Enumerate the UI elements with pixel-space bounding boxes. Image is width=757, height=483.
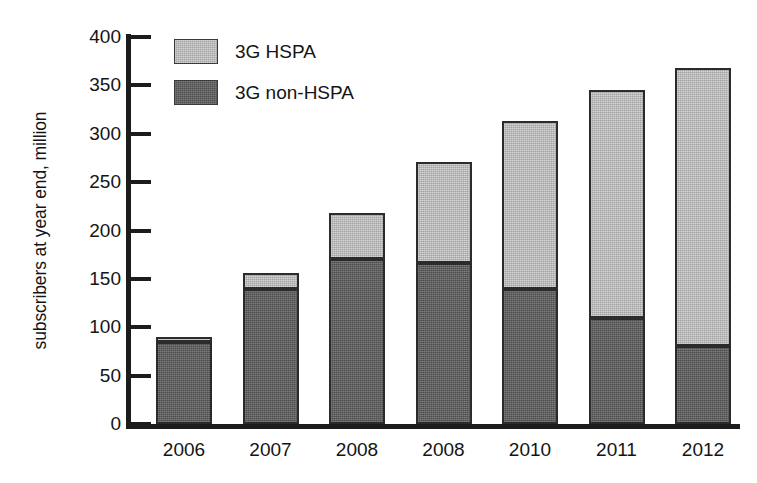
bar-segment-hspa[interactable]: [243, 273, 299, 288]
bar-group[interactable]: [675, 37, 731, 424]
y-axis-tick-label: 100: [65, 317, 121, 336]
x-axis-line: [126, 424, 740, 429]
bar-segment-non-hspa[interactable]: [416, 263, 472, 424]
bar-segment-non-hspa[interactable]: [589, 318, 645, 424]
bar-segment-hspa[interactable]: [589, 90, 645, 317]
legend-item-label: 3G non-HSPA: [235, 83, 354, 102]
x-axis-tick-label: 2007: [226, 440, 316, 459]
chart-legend: 3G HSPA3G non-HSPA: [174, 34, 354, 116]
bar-segment-non-hspa[interactable]: [243, 289, 299, 424]
x-axis-tick-label: 2012: [658, 440, 748, 459]
legend-item[interactable]: 3G HSPA: [174, 34, 354, 68]
x-axis-tick-label: 2008: [399, 440, 489, 459]
x-axis-tick-label: 2008: [312, 440, 402, 459]
bar-segment-hspa[interactable]: [416, 162, 472, 264]
y-axis-tick-label: 350: [65, 75, 121, 94]
bar-group[interactable]: [502, 37, 558, 424]
bar-segment-hspa[interactable]: [329, 213, 385, 258]
bar-chart: subscribers at year end, million 4003503…: [0, 0, 757, 483]
y-axis-tick-label: 50: [65, 366, 121, 385]
y-axis-title: subscribers at year end, million: [30, 41, 51, 421]
light-gray-swatch: [174, 39, 218, 64]
bar-segment-hspa[interactable]: [502, 121, 558, 288]
x-axis-tick-label: 2011: [572, 440, 662, 459]
y-axis-tick-label: 400: [65, 27, 121, 46]
bar-segment-hspa[interactable]: [675, 68, 731, 346]
bar-group[interactable]: [416, 37, 472, 424]
y-axis-tick-labels: 400350300250200150100500: [55, 0, 121, 483]
y-axis-tick-label: 0: [65, 414, 121, 433]
y-axis-tick-label: 250: [65, 172, 121, 191]
bar-segment-non-hspa[interactable]: [502, 289, 558, 424]
dark-gray-swatch: [174, 80, 218, 105]
bar-segment-non-hspa[interactable]: [329, 259, 385, 424]
bar-segment-non-hspa[interactable]: [156, 342, 212, 424]
bar-group[interactable]: [589, 37, 645, 424]
legend-item-label: 3G HSPA: [235, 42, 316, 61]
x-axis-tick-label: 2010: [485, 440, 575, 459]
y-axis-tick-label: 300: [65, 124, 121, 143]
bar-segment-non-hspa[interactable]: [675, 346, 731, 424]
x-axis-tick-label: 2006: [139, 440, 229, 459]
y-axis-tick-label: 150: [65, 269, 121, 288]
legend-item[interactable]: 3G non-HSPA: [174, 75, 354, 109]
y-axis-tick-label: 200: [65, 221, 121, 240]
bar-segment-hspa[interactable]: [156, 337, 212, 342]
